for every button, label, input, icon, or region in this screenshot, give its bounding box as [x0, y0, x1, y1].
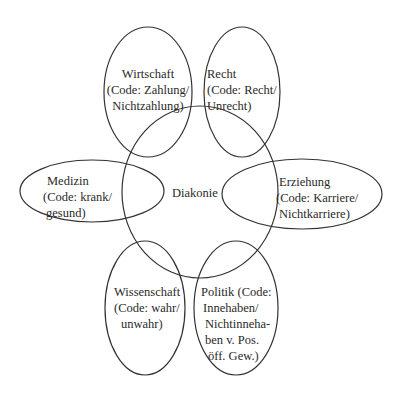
label-line: gesund)	[43, 205, 112, 221]
center-label: Diakonie	[172, 186, 218, 200]
label-line: Nichtkarriere)	[276, 206, 358, 222]
label-line: Innehaben/	[201, 300, 272, 316]
label-politik: Politik (Code: Innehaben/ Nichtinneha- b…	[201, 284, 272, 364]
label-line: Nichtinneha-	[201, 316, 272, 332]
label-line: Erziehung	[276, 174, 358, 190]
label-line: Wissenschaft	[114, 284, 180, 300]
label-line: (Code: wahr/	[114, 300, 180, 316]
label-wissenschaft: Wissenschaft (Code: wahr/ unwahr)	[114, 284, 180, 332]
label-wirtschaft: Wirtschaft (Code: Zahlung/ Nichtzahlung)	[104, 66, 192, 114]
label-erziehung: Erziehung (Code: Karriere/ Nichtkarriere…	[276, 174, 358, 222]
label-line: unwahr)	[114, 316, 180, 332]
label-line: (Code: krank/	[43, 189, 112, 205]
label-line: (Code: Recht/	[207, 82, 277, 98]
label-line: Nichtzahlung)	[104, 98, 192, 114]
label-diakonie: Diakonie	[172, 185, 218, 201]
label-line: öff. Gew.)	[201, 348, 272, 364]
label-line: ben v. Pos.	[201, 332, 272, 348]
label-line: Medizin	[43, 173, 112, 189]
label-line: Politik (Code:	[201, 284, 272, 300]
label-line: Recht	[207, 66, 277, 82]
label-line: (Code: Karriere/	[276, 190, 358, 206]
label-medizin: Medizin (Code: krank/ gesund)	[43, 173, 112, 221]
label-line: Unrecht)	[207, 98, 277, 114]
label-line: (Code: Zahlung/	[104, 82, 192, 98]
label-recht: Recht (Code: Recht/ Unrecht)	[207, 66, 277, 114]
label-line: Wirtschaft	[104, 66, 192, 82]
